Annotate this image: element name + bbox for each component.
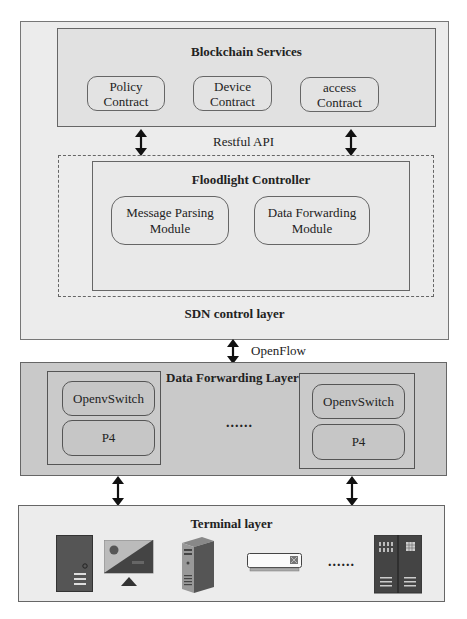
contract-label: Device [214, 79, 251, 94]
data-forwarding-layer-title: Data Forwarding Layer [166, 370, 299, 386]
device-contract: Device Contract [193, 76, 272, 111]
floodlight-controller-title: Floodlight Controller [92, 172, 410, 188]
contract-label: Contract [104, 94, 149, 109]
sdn-control-layer-label: SDN control layer [20, 306, 449, 322]
p4-right: P4 [312, 424, 405, 460]
contract-label: access [323, 80, 356, 95]
access-contract: access Contract [300, 77, 379, 112]
bidirectional-arrow-icon [346, 476, 358, 506]
module-label: Module [150, 221, 190, 237]
openvswitch-right: OpenvSwitch [312, 384, 405, 419]
module-label: Data Forwarding [268, 205, 356, 221]
p4-left: P4 [62, 420, 155, 456]
bidirectional-arrow-icon [135, 129, 147, 156]
module-label: Message Parsing [126, 205, 214, 221]
server-icon [180, 535, 216, 595]
blockchain-services-title: Blockchain Services [57, 44, 436, 60]
restful-api-label: Restful API [213, 134, 274, 150]
contract-label: Policy [109, 79, 142, 94]
terminal-layer-title: Terminal layer [18, 516, 445, 532]
module-label: Module [292, 221, 332, 237]
bidirectional-arrow-icon [345, 129, 357, 156]
device-ellipsis: ...... [328, 554, 355, 570]
bidirectional-arrow-icon [227, 339, 239, 364]
data-forwarding-module: Data Forwarding Module [254, 196, 370, 245]
openvswitch-left: OpenvSwitch [62, 381, 155, 416]
desktop-tower-icon [56, 535, 94, 593]
policy-contract: Policy Contract [87, 76, 165, 111]
contract-label: Contract [210, 94, 255, 109]
openflow-label: OpenFlow [251, 343, 306, 359]
monitor-icon [104, 540, 154, 590]
switch-ellipsis: ...... [226, 415, 253, 431]
air-conditioner-icon [247, 553, 303, 573]
contract-label: Contract [317, 95, 362, 110]
server-rack-icon [374, 535, 422, 594]
message-parsing-module: Message Parsing Module [111, 196, 229, 245]
bidirectional-arrow-icon [112, 476, 124, 506]
